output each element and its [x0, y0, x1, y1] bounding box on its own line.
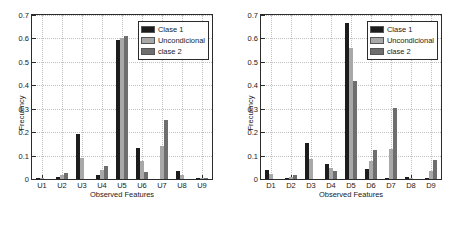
y-axis-tick — [32, 179, 36, 180]
chart-panel-right: Frecuency 00.10.20.30.40.50.60.7D1D2D3D4… — [229, 0, 458, 225]
y-axis-tick-label: 0.1 — [248, 151, 258, 160]
y-axis-tick-label: 0.7 — [248, 11, 258, 20]
y-axis-tick — [261, 38, 265, 39]
legend-left: Clase 1Uncondicionalclase 2 — [138, 21, 209, 60]
y-axis-tick — [261, 132, 265, 133]
x-axis-tick-label: U8 — [177, 181, 187, 190]
bar — [293, 175, 297, 179]
gridline-vertical — [62, 15, 63, 179]
y-axis-tick — [261, 85, 265, 86]
gridline-vertical — [311, 15, 312, 179]
legend-swatch-icon — [370, 48, 384, 55]
x-axis-tick-label: U3 — [77, 181, 87, 190]
y-axis-tick — [32, 156, 36, 157]
y-axis-tick-label: 0.4 — [19, 81, 29, 90]
y-axis-tick — [261, 109, 265, 110]
bar — [80, 158, 84, 179]
x-axis-tick-label: U2 — [57, 181, 67, 190]
y-axis-tick-label: 0.3 — [248, 104, 258, 113]
legend-item: Uncondicional — [370, 35, 434, 46]
x-axis-tick-label: U7 — [157, 181, 167, 190]
bar — [104, 166, 108, 179]
bar — [144, 172, 148, 179]
legend-swatch-icon — [141, 48, 155, 55]
y-axis-tick-label: 0.5 — [19, 57, 29, 66]
legend-swatch-icon — [141, 26, 155, 33]
x-axis-tick-label: U6 — [137, 181, 147, 190]
legend-item: clase 2 — [370, 46, 434, 57]
x-axis-tick-label: D9 — [426, 181, 436, 190]
legend-label: clase 2 — [158, 47, 182, 56]
legend-label: clase 2 — [387, 47, 411, 56]
legend-label: Uncondicional — [158, 36, 205, 45]
x-axis-tick-label: D7 — [386, 181, 396, 190]
plot-axes-right: 00.10.20.30.40.50.60.7D1D2D3D4D5D6D7D8D9… — [260, 14, 442, 180]
bar — [269, 174, 273, 179]
y-axis-tick — [32, 109, 36, 110]
y-axis-tick — [32, 132, 36, 133]
legend-label: Clase 1 — [387, 25, 412, 34]
y-axis-tick-label: 0.6 — [248, 34, 258, 43]
y-axis-tick-label: 0.3 — [19, 104, 29, 113]
legend-swatch-icon — [370, 26, 384, 33]
legend-item: clase 2 — [141, 46, 205, 57]
y-axis-tick-label: 0.4 — [248, 81, 258, 90]
gridline-vertical — [102, 15, 103, 179]
legend-right: Clase 1Uncondicionalclase 2 — [367, 21, 438, 60]
legend-item: Uncondicional — [141, 35, 205, 46]
bar — [40, 178, 44, 179]
legend-label: Clase 1 — [158, 25, 183, 34]
y-axis-tick-label: 0.5 — [248, 57, 258, 66]
y-axis-tick — [261, 62, 265, 63]
legend-swatch-icon — [141, 37, 155, 44]
figure-container: Frecuency 00.10.20.30.40.50.60.7U1U2U3U4… — [0, 0, 458, 225]
bar — [180, 175, 184, 179]
bar — [433, 160, 437, 179]
x-axis-tick-label: D8 — [406, 181, 416, 190]
legend-item: Clase 1 — [141, 24, 205, 35]
y-axis-tick — [261, 156, 265, 157]
x-axis-label-left: Observed Features — [31, 190, 213, 199]
x-axis-tick-label: D6 — [366, 181, 376, 190]
bar — [164, 120, 168, 180]
x-axis-tick-label: D3 — [306, 181, 316, 190]
bar — [353, 81, 357, 179]
x-axis-label-right: Observed Features — [260, 190, 442, 199]
y-axis-tick — [32, 38, 36, 39]
plot-axes-left: 00.10.20.30.40.50.60.7U1U2U3U4U5U6U7U8U9… — [31, 14, 213, 180]
gridline-vertical — [291, 15, 292, 179]
y-axis-tick-label: 0.2 — [248, 128, 258, 137]
bar — [124, 36, 128, 179]
x-axis-tick-label: U9 — [197, 181, 207, 190]
gridline-vertical — [82, 15, 83, 179]
y-axis-tick — [32, 62, 36, 63]
y-axis-tick-label: 0.7 — [19, 11, 29, 20]
gridline-vertical — [42, 15, 43, 179]
bar — [333, 171, 337, 179]
y-axis-tick — [32, 85, 36, 86]
y-axis-tick-label: 0.2 — [19, 128, 29, 137]
y-axis-tick — [261, 15, 265, 16]
x-axis-tick-label: U4 — [97, 181, 107, 190]
chart-panel-left: Frecuency 00.10.20.30.40.50.60.7U1U2U3U4… — [0, 0, 229, 225]
bar — [409, 178, 413, 179]
y-axis-tick-label: 0.1 — [19, 151, 29, 160]
x-axis-tick-label: D2 — [286, 181, 296, 190]
bar — [393, 108, 397, 179]
gridline-vertical — [331, 15, 332, 179]
gridline-vertical — [271, 15, 272, 179]
legend-item: Clase 1 — [370, 24, 434, 35]
bar — [204, 178, 208, 179]
legend-swatch-icon — [370, 37, 384, 44]
bar — [64, 173, 68, 179]
x-axis-tick-label: D4 — [326, 181, 336, 190]
y-axis-tick-label: 0 — [254, 175, 258, 184]
y-axis-tick — [32, 15, 36, 16]
x-axis-tick-label: U5 — [117, 181, 127, 190]
x-axis-tick-label: D1 — [266, 181, 276, 190]
bar — [373, 150, 377, 179]
x-axis-tick-label: U1 — [37, 181, 47, 190]
y-axis-tick-label: 0 — [25, 175, 29, 184]
y-axis-tick — [261, 179, 265, 180]
bar — [309, 159, 313, 179]
